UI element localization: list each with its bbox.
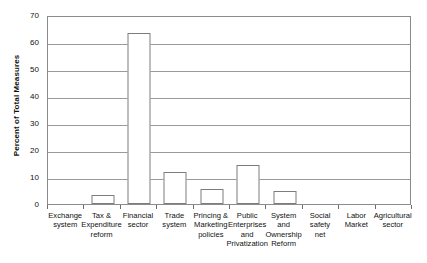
x-axis-tick [265, 205, 266, 209]
x-axis-tick [83, 205, 84, 209]
bar [91, 195, 114, 204]
x-axis-tick-label-line: Reform [261, 239, 305, 248]
x-axis-tick-label-line: reform [79, 230, 123, 239]
x-axis-tick [47, 205, 48, 209]
bar [237, 165, 260, 204]
x-axis-tick-label-line: net [298, 230, 342, 239]
y-axis-tick-label: 70 [15, 12, 39, 20]
bar [273, 191, 296, 205]
bar [164, 172, 187, 204]
x-axis-tick-label-line: sector [371, 220, 415, 229]
bar-slot [230, 17, 266, 204]
bar-chart: Percent of Total Measures 70605040302010… [0, 0, 427, 263]
bar-slot [339, 17, 375, 204]
y-axis-tick-label: 30 [15, 120, 39, 128]
x-axis-tick [193, 205, 194, 209]
y-axis-tick-label: 50 [15, 66, 39, 74]
x-axis-tick [338, 205, 339, 209]
plot-area [47, 16, 411, 205]
y-axis-tick-label: 40 [15, 93, 39, 101]
x-axis-tick [120, 205, 121, 209]
x-axis-tick-label: Agriculturalsector [371, 211, 415, 230]
bar-slot [266, 17, 302, 204]
y-axis-tick-label: 60 [15, 39, 39, 47]
bar-slot [121, 17, 157, 204]
bar [127, 33, 150, 204]
x-axis-tick [411, 205, 412, 209]
y-axis-tick-label: 10 [15, 174, 39, 182]
bar-slot [157, 17, 193, 204]
bar [200, 189, 223, 204]
y-axis-tick-label: 20 [15, 147, 39, 155]
x-axis-tick [302, 205, 303, 209]
x-axis-tick [375, 205, 376, 209]
bar-slot [84, 17, 120, 204]
x-axis-tick-label-line: Agricultural [371, 211, 415, 220]
bar-slot [194, 17, 230, 204]
bar-slot [303, 17, 339, 204]
y-axis-title: Percent of Total Measures [12, 31, 21, 181]
bar-slot [48, 17, 84, 204]
x-axis-tick [229, 205, 230, 209]
x-axis-tick [156, 205, 157, 209]
bar-slot [376, 17, 412, 204]
y-axis-tick-label: 0 [15, 201, 39, 209]
